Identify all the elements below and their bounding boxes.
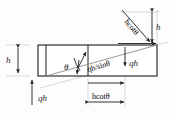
diagram-canvas: θ h h hcotθ qh/sinθ qh qh hcotθ	[0, 0, 170, 119]
load-right-label: qh	[129, 58, 139, 68]
load-bottom-left-label: qh	[38, 93, 48, 103]
angle-label: θ	[64, 62, 69, 72]
span-top-right-label: hcotθ	[122, 18, 140, 37]
height-left-label: h	[6, 55, 11, 65]
span-bottom-label: hcotθ	[92, 92, 110, 101]
truss-load-diagram: θ h h hcotθ qh/sinθ qh qh hcotθ	[0, 0, 170, 119]
height-right-label: h	[156, 22, 161, 32]
